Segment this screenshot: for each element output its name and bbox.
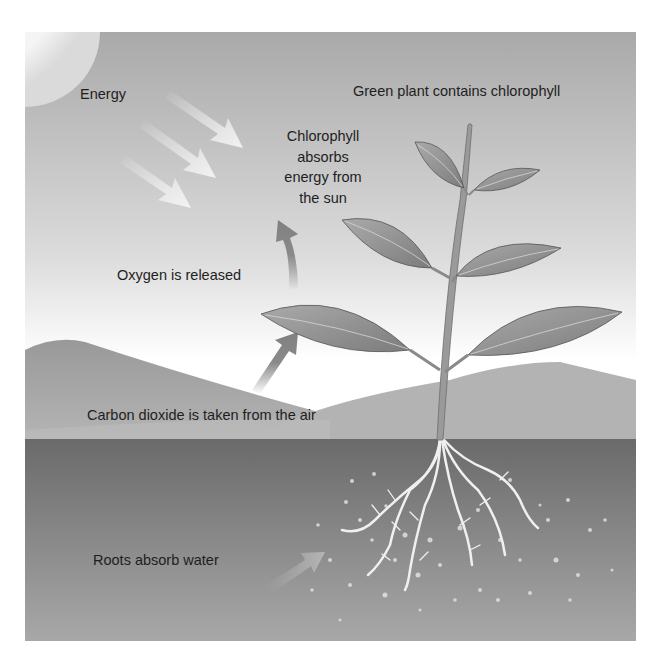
energy-label: Energy: [80, 84, 126, 104]
oxygen-label: Oxygen is released: [117, 265, 241, 285]
roots-label: Roots absorb water: [93, 550, 219, 570]
chlorophyll-absorbs-label: Chlorophyll absorbs energy from the sun: [268, 126, 378, 208]
carbon-dioxide-label: Carbon dioxide is taken from the air: [87, 405, 316, 425]
soil: [25, 439, 636, 641]
green-plant-label: Green plant contains chlorophyll: [353, 81, 560, 101]
